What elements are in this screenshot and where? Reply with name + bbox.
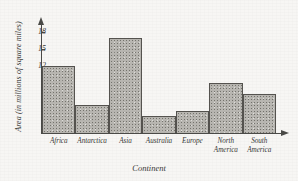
bar-chart: Area (in millions of square miles) 36912…	[0, 0, 298, 181]
y-axis-tick-label: 9	[6, 78, 46, 87]
bar-slot	[209, 24, 242, 133]
x-axis-tick-label: Antarctica	[75, 137, 108, 155]
bar-slot	[176, 24, 209, 133]
x-axis-tick-label: Australia	[142, 137, 175, 155]
x-axis-tick-label-line: Africa	[42, 137, 75, 146]
plot-area	[42, 24, 283, 133]
x-axis-tick-label-line: America	[243, 146, 276, 155]
y-axis-tick-label: 12	[6, 61, 46, 70]
x-axis-tick-label-line: Europe	[176, 137, 209, 146]
x-axis-tick-label-line: North	[209, 137, 242, 146]
bar-europe	[176, 111, 209, 133]
y-axis-tick-label: 18	[6, 27, 46, 36]
bar-antarctica	[75, 105, 108, 133]
x-axis-label: Continent	[0, 163, 298, 173]
y-axis-tick-label: 3	[6, 111, 46, 120]
x-axis-tick-label-line: South	[243, 137, 276, 146]
x-axis-tick-label-line: America	[209, 146, 242, 155]
bar-australia	[142, 116, 175, 133]
bar-north-america	[209, 83, 242, 133]
bar-asia	[109, 38, 142, 133]
bar-africa	[42, 66, 75, 133]
x-axis-tick-label: Europe	[176, 137, 209, 155]
x-axis-tick-label: NorthAmerica	[209, 137, 242, 155]
x-axis-tick-label-line: Antarctica	[75, 137, 108, 146]
y-axis-tick-label: 15	[6, 44, 46, 53]
bar-slot	[109, 24, 142, 133]
bar-slot	[243, 24, 276, 133]
x-axis-tick-labels: AfricaAntarcticaAsiaAustraliaEuropeNorth…	[42, 137, 276, 155]
bar-slot	[142, 24, 175, 133]
x-axis-tick-label: Asia	[109, 137, 142, 155]
bar-series	[42, 24, 276, 133]
bar-south-america	[243, 94, 276, 133]
x-axis-tick-label: Africa	[42, 137, 75, 155]
x-axis-tick-label: SouthAmerica	[243, 137, 276, 155]
y-axis-tick-label: 6	[6, 94, 46, 103]
bar-slot	[42, 24, 75, 133]
x-axis-tick-label-line: Australia	[142, 137, 175, 146]
x-axis-tick-label-line: Asia	[109, 137, 142, 146]
x-axis-line	[41, 133, 283, 134]
bar-slot	[75, 24, 108, 133]
